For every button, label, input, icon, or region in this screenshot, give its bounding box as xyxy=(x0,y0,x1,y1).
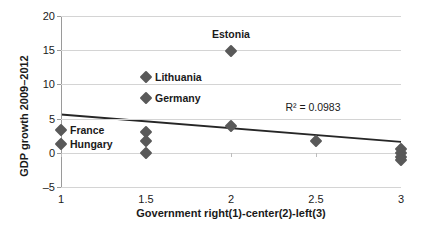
x-tick-label: 2 xyxy=(228,193,234,205)
x-tick-label: 1.5 xyxy=(138,193,153,205)
y-tick-label: 20 xyxy=(43,10,55,22)
x-tick-label: 1 xyxy=(58,193,64,205)
y-tick-label: 10 xyxy=(43,78,55,90)
x-tick xyxy=(61,153,62,157)
y-axis-line xyxy=(61,16,62,187)
data-point-label: France xyxy=(70,124,104,136)
r-squared-annotation: R² = 0.0983 xyxy=(285,101,340,113)
data-point-label: Estonia xyxy=(212,28,250,40)
y-tick-label: 5 xyxy=(49,113,55,125)
gridline-y xyxy=(61,84,401,85)
y-tick-label: 0 xyxy=(49,147,55,159)
x-tick xyxy=(316,153,317,157)
x-axis-title-text: Government right(1)-center(2)-left(3) xyxy=(136,207,325,219)
x-axis-title: Government right(1)-center(2)-left(3) xyxy=(61,207,401,219)
x-tick-label: 3 xyxy=(398,193,404,205)
y-tick xyxy=(57,84,61,85)
y-tick-label: 15 xyxy=(43,44,55,56)
gridline-y xyxy=(61,16,401,17)
x-tick xyxy=(231,153,232,157)
y-tick xyxy=(57,50,61,51)
scatter-chart: GDP growth 2009–2012 20151050–511.522.53… xyxy=(0,0,422,232)
y-tick xyxy=(57,119,61,120)
data-point-label: Hungary xyxy=(70,138,113,150)
data-point-label: Germany xyxy=(155,92,201,104)
trendline xyxy=(61,16,401,187)
y-tick-label: –5 xyxy=(43,181,55,193)
y-tick xyxy=(57,16,61,17)
y-axis-title: GDP growth 2009–2012 xyxy=(22,0,44,232)
plot-area: 20151050–511.522.53FranceHungaryLithuani… xyxy=(61,16,401,187)
y-axis-title-text: GDP growth 2009–2012 xyxy=(18,55,48,176)
gridline-y xyxy=(61,187,401,188)
x-tick-label: 2.5 xyxy=(308,193,323,205)
y-tick xyxy=(57,187,61,188)
data-point-label: Lithuania xyxy=(155,71,202,83)
